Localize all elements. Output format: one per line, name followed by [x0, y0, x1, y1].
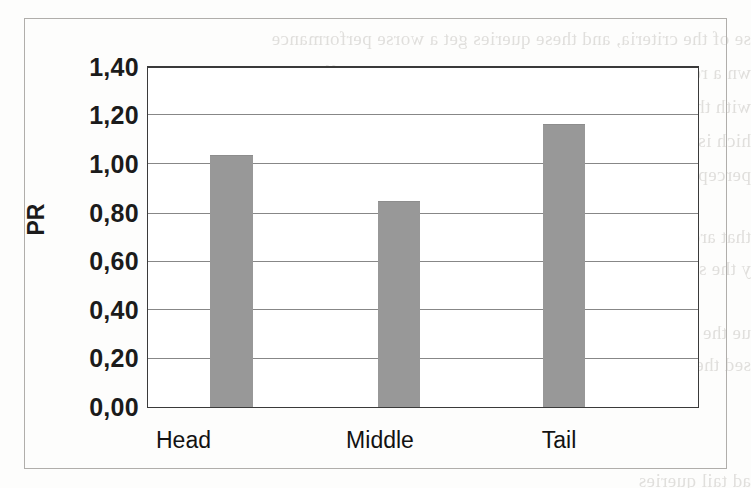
- y-axis-tick-label: 0,20: [43, 344, 139, 373]
- y-axis-tick-label: 1,00: [43, 150, 139, 179]
- x-axis-tick-label-tail: Tail: [529, 427, 589, 454]
- figure-page: se of the criteria, and these queries ge…: [0, 0, 751, 488]
- bar-chart: PR 1,40 1,20 1,00 0,80 0,60 0,40 0,20 0,…: [0, 0, 751, 488]
- x-axis-tick-label-head: Head: [150, 427, 217, 454]
- y-axis-tick-label: 1,40: [43, 53, 139, 82]
- bar-middle[interactable]: [378, 201, 420, 407]
- y-axis-tick-label: 0,60: [43, 247, 139, 276]
- bars-layer: [148, 68, 698, 407]
- bar-head[interactable]: [210, 155, 253, 407]
- x-axis-tick-label-middle: Middle: [337, 427, 423, 454]
- y-axis-tick-label: 1,20: [43, 101, 139, 130]
- plot-area: [147, 66, 699, 408]
- y-axis-tick-labels: 1,40 1,20 1,00 0,80 0,60 0,40 0,20 0,00: [32, 0, 139, 488]
- bar-tail[interactable]: [543, 124, 585, 407]
- y-axis-tick-label: 0,40: [43, 296, 139, 325]
- y-axis-tick-label: 0,80: [43, 199, 139, 228]
- y-axis-tick-label: 0,00: [43, 393, 139, 422]
